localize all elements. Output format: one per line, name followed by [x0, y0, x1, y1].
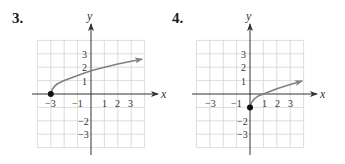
x-axis-label-3: x: [160, 87, 167, 101]
graph-4: x y −3 −1 1 2 3 3 2 1 −2 −3: [192, 9, 326, 155]
svg-text:3: 3: [128, 98, 133, 109]
svg-text:3: 3: [241, 49, 246, 60]
graphs-canvas: x y −3 −1 1 2 3 3 2 1 −2 −3: [0, 0, 345, 164]
svg-text:1: 1: [82, 76, 87, 87]
svg-text:3: 3: [288, 98, 293, 109]
svg-text:2: 2: [115, 98, 120, 109]
y-axis-label-4: y: [245, 9, 252, 23]
svg-text:1: 1: [241, 76, 246, 87]
svg-text:−1: −1: [72, 98, 83, 109]
svg-text:2: 2: [241, 62, 246, 73]
y-axis-label-3: y: [86, 9, 93, 23]
svg-text:−1: −1: [231, 98, 242, 109]
svg-text:−2: −2: [78, 116, 89, 127]
svg-text:−3: −3: [237, 129, 248, 140]
graph-3: x y −3 −1 1 2 3 3 2 1 −2 −3: [32, 9, 167, 155]
svg-text:1: 1: [102, 98, 107, 109]
svg-text:−2: −2: [237, 116, 248, 127]
svg-text:1: 1: [262, 98, 267, 109]
svg-text:−3: −3: [205, 98, 216, 109]
svg-text:3: 3: [82, 49, 87, 60]
svg-text:2: 2: [82, 62, 87, 73]
svg-text:−3: −3: [78, 129, 89, 140]
closed-point-4: [247, 104, 253, 110]
svg-text:2: 2: [275, 98, 280, 109]
closed-point-3: [48, 91, 54, 97]
svg-text:−3: −3: [45, 98, 56, 109]
x-axis-label-4: x: [319, 87, 326, 101]
